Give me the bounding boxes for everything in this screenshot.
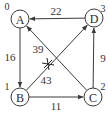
edge-d-to-a (30, 18, 85, 19)
crossing-mark-layer (42, 58, 54, 70)
edge-weight-d-a: 22 (51, 5, 62, 17)
node-index-label: 0 (5, 1, 10, 12)
crossing-star-icon (42, 58, 54, 70)
edge-weight-b-d: 43 (41, 74, 53, 86)
edge-weight-c-d: 9 (100, 52, 106, 64)
node-index-label: 3 (101, 3, 106, 14)
node-label: A (16, 13, 25, 27)
node-c: C2 (84, 81, 106, 107)
edge-c-to-d (93, 28, 94, 88)
node-label: D (90, 12, 99, 26)
node-label: B (16, 91, 24, 105)
edge-weight-a-b: 16 (5, 51, 17, 63)
node-a: A0 (5, 1, 30, 29)
node-label: C (89, 91, 97, 105)
edge-weight-c-a: 39 (33, 43, 45, 55)
node-index-label: 1 (5, 81, 10, 92)
node-b: B1 (5, 81, 30, 107)
node-d: D3 (85, 3, 106, 28)
edge-weight-b-c: 11 (51, 100, 62, 112)
node-index-label: 2 (101, 81, 106, 92)
graph-diagram: 22161193943 A0B1C2D3 (0, 0, 108, 113)
